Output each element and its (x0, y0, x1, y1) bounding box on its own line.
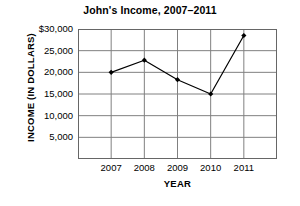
y-tick-label: 25,000 (6, 46, 78, 56)
y-tick-label: 5,000 (6, 132, 78, 142)
plot-svg (78, 29, 277, 159)
x-axis-tick-labels: 20072008200920102011 (78, 162, 277, 176)
plot-area (78, 29, 277, 159)
x-axis-title: YEAR (78, 178, 277, 189)
y-tick-label: 10,000 (6, 111, 78, 121)
income-line-chart: John's Income, 2007–2011 INCOME (IN DOLL… (0, 0, 300, 206)
y-tick-label: $30,000 (6, 24, 78, 34)
x-tick-label: 2011 (222, 162, 266, 174)
y-tick-label: 15,000 (6, 89, 78, 99)
y-tick-label: 20,000 (6, 67, 78, 77)
y-axis-tick-labels: $30,00025,00020,00015,00010,0005,000 (0, 0, 78, 206)
